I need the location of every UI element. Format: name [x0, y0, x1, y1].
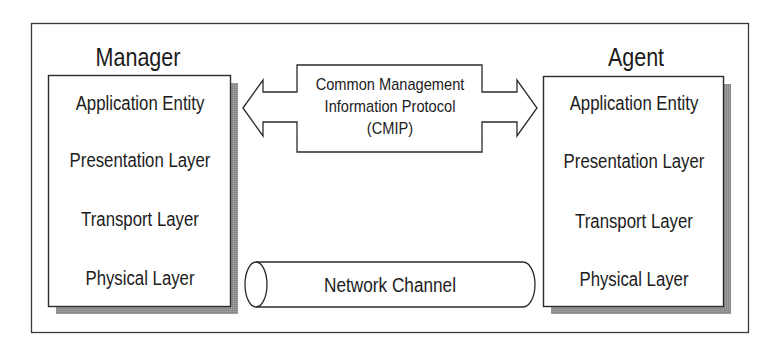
manager-layer-application-entity: Application Entity [76, 94, 205, 114]
manager-title: Manager [96, 45, 181, 70]
cmip-label-line-1: Common Management [316, 74, 465, 95]
manager-layer-transport: Transport Layer [81, 210, 199, 230]
agent-layer-presentation: Presentation Layer [564, 152, 705, 172]
network-channel-label: Network Channel [324, 275, 456, 295]
cmip-label-line-3: (CMIP) [367, 118, 413, 139]
manager-layer-physical: Physical Layer [85, 269, 194, 289]
cmip-label-line-2: Information Protocol [325, 96, 456, 117]
agent-layer-application-entity: Application Entity [570, 94, 699, 114]
cylinder-end-cap [245, 262, 267, 307]
agent-title: Agent [608, 45, 664, 70]
agent-layer-physical: Physical Layer [579, 270, 688, 290]
manager-layer-presentation: Presentation Layer [70, 151, 211, 171]
agent-layer-transport: Transport Layer [575, 212, 693, 232]
